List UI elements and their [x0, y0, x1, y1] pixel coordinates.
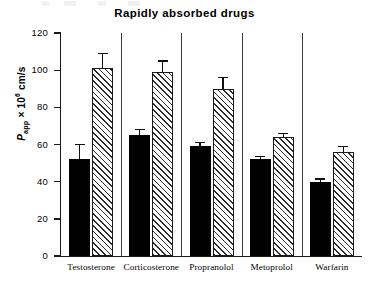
- category-label-metoprolol: Metoprolol: [238, 262, 306, 272]
- errorbar-warfarin-hatched: [343, 146, 344, 152]
- category-label-propranolol: Propranolol: [177, 262, 245, 272]
- y-tick-100: [54, 70, 60, 71]
- y-axis-exponent: 6: [14, 93, 21, 97]
- errorcap-metoprolol-solid: [255, 156, 265, 157]
- scan-artifact: [36, 1, 216, 6]
- y-tick-0: [54, 255, 60, 256]
- y-tick-40: [54, 181, 60, 182]
- y-axis-line: [60, 32, 61, 257]
- errorcap-warfarin-hatched: [338, 146, 348, 147]
- errorcap-corticosterone-hatched: [158, 60, 168, 61]
- bar-testosterone-solid: [69, 159, 90, 256]
- errorcap-propranolol-solid: [195, 142, 205, 143]
- category-label-testosterone: Testosterone: [57, 262, 125, 272]
- y-tick-120: [54, 32, 60, 33]
- bar-corticosterone-solid: [129, 135, 150, 256]
- bar-warfarin-solid: [310, 182, 331, 256]
- group-separator-1: [121, 33, 122, 256]
- errorbar-testosterone-hatched: [102, 53, 103, 68]
- y-tick-80: [54, 107, 60, 108]
- errorbar-corticosterone-solid: [139, 130, 140, 136]
- errorbar-propranolol-hatched: [222, 78, 223, 89]
- x-axis-line: [60, 256, 362, 257]
- y-tick-label-120: 120: [8, 28, 48, 38]
- errorcap-metoprolol-hatched: [278, 133, 288, 134]
- y-tick-60: [54, 144, 60, 145]
- group-separator-2: [181, 33, 182, 256]
- chart-figure: Rapidly absorbed drugs Papp × 106 cm/s 0…: [0, 0, 369, 292]
- y-tick-label-100: 100: [8, 65, 48, 75]
- errorcap-testosterone-hatched: [98, 53, 108, 54]
- y-axis-subscript: app: [21, 121, 30, 134]
- errorcap-propranolol-hatched: [218, 77, 228, 78]
- bar-warfarin-hatched: [333, 152, 354, 256]
- bar-metoprolol-solid: [250, 159, 271, 256]
- errorbar-testosterone-solid: [79, 145, 80, 160]
- category-label-corticosterone: Corticosterone: [117, 262, 185, 272]
- y-tick-label-80: 80: [8, 102, 48, 112]
- bar-propranolol-solid: [190, 146, 211, 256]
- bar-testosterone-hatched: [92, 68, 113, 256]
- y-tick-20: [54, 218, 60, 219]
- group-separator-4: [302, 33, 303, 256]
- y-tick-label-60: 60: [8, 140, 48, 150]
- errorbar-corticosterone-hatched: [162, 61, 163, 72]
- errorcap-testosterone-solid: [75, 144, 85, 145]
- category-label-warfarin: Warfarin: [298, 262, 366, 272]
- errorcap-corticosterone-solid: [135, 129, 145, 130]
- group-separator-3: [242, 33, 243, 256]
- errorcap-warfarin-solid: [315, 178, 325, 179]
- chart-title: Rapidly absorbed drugs: [0, 7, 369, 19]
- y-tick-label-40: 40: [8, 177, 48, 187]
- bar-corticosterone-hatched: [152, 72, 173, 256]
- y-tick-label-0: 0: [8, 251, 48, 261]
- y-tick-label-20: 20: [8, 214, 48, 224]
- bar-propranolol-hatched: [213, 89, 234, 256]
- bar-metoprolol-hatched: [273, 137, 294, 256]
